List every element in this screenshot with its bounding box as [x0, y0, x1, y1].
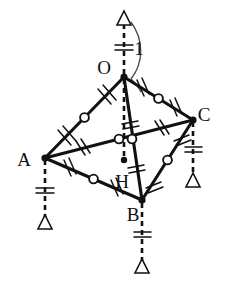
vertex-label-a: A: [17, 149, 31, 170]
support-a-triangle: [38, 215, 52, 229]
vertex-label-c: C: [198, 104, 211, 125]
measure-arrowhead-icon: [117, 11, 131, 25]
support-line-c: [185, 122, 202, 187]
support-b-triangle: [135, 259, 149, 273]
vertex-label-o: O: [97, 57, 111, 78]
vertex-label-h: H: [115, 171, 129, 192]
vertex-label-b: B: [127, 204, 140, 225]
vertex-dot-c: [189, 116, 196, 123]
vertex-dot-o: [120, 73, 127, 80]
vertex-dot-b: [138, 196, 145, 203]
measure-label-1: 1: [134, 38, 144, 59]
midpoint-circle-bc: [163, 156, 172, 165]
midpoint-circle-ac: [115, 135, 124, 144]
geometry-figure: O A B C H 1: [0, 0, 227, 291]
midpoint-circle-oa: [80, 113, 89, 122]
support-line-a: [36, 160, 54, 229]
midpoint-circle-oc: [154, 94, 163, 103]
midpoint-circle-ab: [89, 175, 98, 184]
figure-container: O A B C H 1: [0, 0, 227, 291]
measure-arrow-group: [115, 11, 133, 74]
vertex-dot-a: [41, 154, 48, 161]
midpoint-circle-ob: [128, 135, 137, 144]
foot-point-h-dot: [121, 157, 127, 163]
support-c-triangle: [186, 173, 200, 187]
